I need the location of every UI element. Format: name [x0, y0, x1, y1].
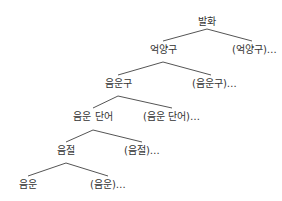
node-intonation-phrase: 억양구 [150, 44, 177, 56]
edge-l1-left [118, 62, 163, 75]
node-syllable: 음절 [57, 145, 75, 157]
node-phonological-word-sibling: (음운 단어)… [143, 111, 200, 123]
node-utterance: 발화 [198, 16, 216, 28]
edge-l2-right [118, 96, 172, 108]
edge-l3-left [66, 130, 93, 142]
node-phonological-phrase: 음운구 [105, 78, 132, 90]
node-syllable-sibling: (음절)… [124, 145, 160, 157]
edge-l3-right [93, 130, 142, 142]
edge-root-left [163, 29, 207, 41]
edge-l4-right [66, 163, 108, 176]
edge-root-right [207, 29, 252, 41]
edge-l1-right [163, 62, 211, 75]
tree-edges [0, 0, 282, 201]
node-intonation-phrase-sibling: (억양구)… [232, 44, 277, 56]
edge-l2-left [93, 96, 118, 108]
prosodic-hierarchy-tree: 발화 억양구 (억양구)… 음운구 (음운구)… 음운 단어 (음운 단어)… … [0, 0, 282, 201]
node-phonological-word: 음운 단어 [73, 111, 112, 123]
node-phoneme: 음운 [19, 179, 37, 191]
node-phonological-phrase-sibling: (음운구)… [192, 78, 237, 90]
node-phoneme-sibling: (음운)… [90, 179, 126, 191]
edge-l4-left [28, 163, 66, 176]
